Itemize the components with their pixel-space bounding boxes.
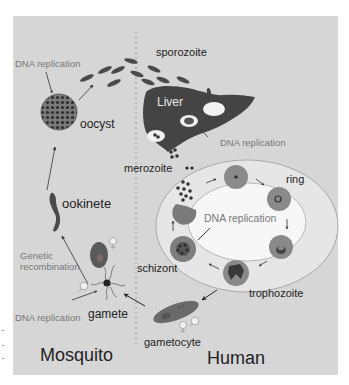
female-gamete-cell [90, 242, 108, 268]
gametocyte-label: gametocyte [144, 336, 201, 348]
edge-mark [2, 345, 4, 346]
liver-schizont [180, 115, 198, 127]
oocyst-label: oocyst [80, 117, 115, 131]
oocyst [41, 94, 77, 130]
trophozoite-label: trophozoite [249, 287, 303, 299]
dna-replication-center-label: DNA replication [204, 212, 277, 224]
liver-label: Liver [157, 95, 183, 109]
ring-label: ring [286, 173, 304, 185]
merozoite-invaded-rbc [224, 165, 248, 189]
schizont-cell [170, 236, 196, 262]
mosquito-region-label: Mosquito [40, 345, 113, 365]
edge-mark [2, 358, 4, 359]
human-region-label: Human [207, 348, 265, 368]
edge-mark [2, 330, 4, 331]
merozoite-label: merozoite [124, 162, 172, 174]
female-symbol-icon [110, 238, 117, 250]
merozoite-dot [190, 166, 193, 169]
liver-vacuole [203, 102, 225, 116]
sporozoite-label: sporozoite [156, 46, 207, 58]
schizont-label: schizont [137, 262, 177, 274]
gametocyte-female-symbol-icon [180, 322, 187, 334]
merozoite-dot [185, 166, 188, 169]
genetic-recombination-label-line2: recombination [20, 261, 80, 272]
ring-stage-cell [267, 187, 291, 211]
trophozoite-cell [223, 260, 249, 286]
early-trophozoite-cell [269, 235, 293, 259]
dna-replication-liver-label: DNA replication [220, 137, 285, 148]
ookinete-label: ookinete [62, 196, 111, 211]
dna-replication-oocyst-label: DNA replication [15, 58, 80, 69]
gamete-label: gamete [88, 307, 128, 321]
malaria-life-cycle-diagram: DNA replication oocyst sporozoite ookine… [0, 0, 349, 385]
genetic-recombination-label-line1: Genetic [20, 250, 53, 261]
dna-replication-gamete-label: DNA replication [15, 312, 80, 323]
